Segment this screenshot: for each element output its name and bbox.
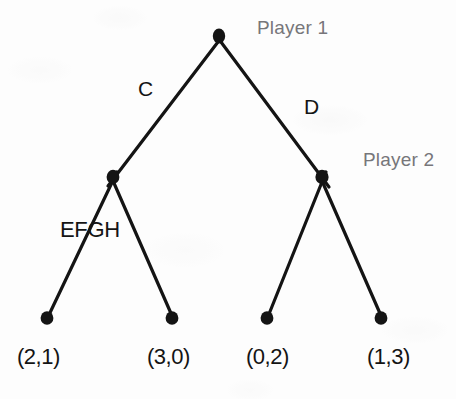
action-label-c: C <box>138 78 153 99</box>
action-label-d: D <box>304 96 319 117</box>
player-1-label: Player 1 <box>257 18 328 37</box>
tree-edges <box>47 38 382 319</box>
edge-left-node-to-leaf-1 <box>47 172 117 319</box>
player-2-label: Player 2 <box>363 150 434 169</box>
payoff-label-3: (0,2) <box>246 346 289 368</box>
terminal-node-3[interactable] <box>261 311 274 325</box>
payoff-label-1: (2,1) <box>17 346 60 368</box>
terminal-node-2[interactable] <box>166 311 179 325</box>
terminal-node-1[interactable] <box>41 311 54 325</box>
edge-right-node-to-leaf-4 <box>319 174 382 318</box>
information-set-label-efgh: EFGH <box>60 219 120 241</box>
payoff-label-4: (1,3) <box>367 346 410 368</box>
tree-nodes <box>41 29 388 325</box>
node-root-player1[interactable] <box>213 29 225 44</box>
node-player2-right[interactable] <box>315 170 328 184</box>
edge-right-node-to-leaf-3 <box>267 172 326 319</box>
game-tree-canvas <box>0 0 456 399</box>
edge-root-to-left-node <box>108 38 221 186</box>
edge-left-node-to-leaf-2 <box>110 174 173 318</box>
terminal-node-4[interactable] <box>375 311 388 325</box>
payoff-label-2: (3,0) <box>147 346 190 368</box>
node-player2-left[interactable] <box>107 170 120 184</box>
